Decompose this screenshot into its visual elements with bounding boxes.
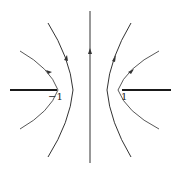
streamline-diagram xyxy=(0,0,179,176)
label-minus-one: −1 xyxy=(48,92,63,102)
arrow-up-icon xyxy=(88,48,92,54)
label-one: 1 xyxy=(121,92,127,102)
arrow-icon xyxy=(112,55,116,62)
diagram-canvas: −1 1 xyxy=(0,0,179,176)
